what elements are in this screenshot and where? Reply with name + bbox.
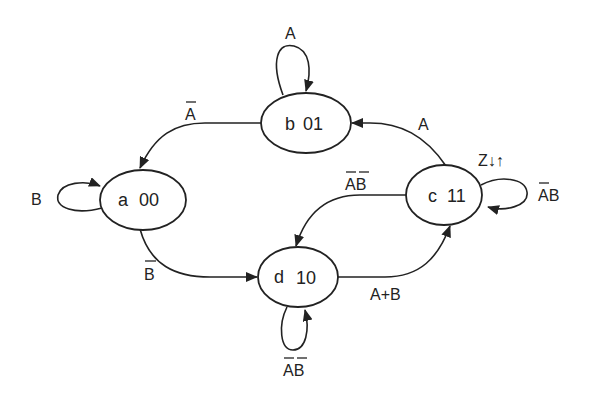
label-b-a: A <box>185 106 196 123</box>
state-b-code: 01 <box>303 114 323 134</box>
transition-b-to-b: A <box>277 25 310 95</box>
state-c-output: Z↓↑ <box>478 152 504 169</box>
state-b-name: b <box>285 114 295 134</box>
state-d-name: d <box>274 267 284 287</box>
state-c: c 11 Z↓↑ <box>406 152 504 225</box>
state-a-code: 00 <box>139 190 159 210</box>
state-c-code: 11 <box>447 186 466 206</box>
label-c-c: AB <box>538 187 559 204</box>
transition-b-to-a: A <box>140 102 261 168</box>
state-c-name: c <box>428 186 437 206</box>
transition-c-to-c: AB <box>481 179 559 209</box>
label-b-b: A <box>285 25 296 42</box>
label-d-d: AB <box>283 362 304 379</box>
transition-c-to-b: A <box>352 116 446 166</box>
transition-d-to-c: A+B <box>338 226 450 303</box>
state-b: b 01 <box>261 93 351 153</box>
state-diagram: A A A B B AB A+B AB AB <box>0 0 596 398</box>
label-c-b: A <box>418 116 429 133</box>
label-a-a: B <box>31 191 42 208</box>
transition-a-to-a: B <box>31 183 102 211</box>
state-a-name: a <box>118 190 129 210</box>
label-d-c: A+B <box>370 286 401 303</box>
transition-c-to-d: AB <box>296 172 407 246</box>
label-a-d: B <box>144 266 155 283</box>
state-d: d 10 <box>258 247 338 307</box>
state-d-code: 10 <box>296 268 316 288</box>
state-a: a 00 <box>100 170 186 230</box>
transition-d-to-d: AB <box>281 307 307 379</box>
transition-a-to-d: B <box>140 229 257 283</box>
label-c-d: AB <box>345 176 366 193</box>
